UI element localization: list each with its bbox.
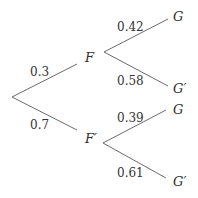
prob-F: 0.3 — [30, 65, 49, 79]
node-F-prime-G-prime: G′ — [173, 174, 186, 189]
prob-F-prime: 0.7 — [30, 118, 49, 132]
prob-F-G-prime: 0.58 — [117, 74, 144, 88]
prob-F-prime-G-prime: 0.61 — [117, 166, 144, 180]
node-F-G-prime: G′ — [173, 81, 186, 96]
node-F-prime-G: G — [173, 102, 183, 117]
node-F-prime: F′ — [84, 131, 97, 146]
node-F: F — [84, 50, 95, 65]
tree-diagram: 0.3 0.7 F F′ 0.42 0.58 0.39 0.61 G G′ G … — [0, 0, 198, 198]
prob-F-prime-G: 0.39 — [117, 111, 144, 125]
node-F-G: G — [173, 9, 183, 24]
prob-F-G: 0.42 — [117, 20, 144, 34]
